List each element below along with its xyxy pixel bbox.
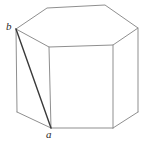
- bottom-right-edge: [113, 112, 138, 128]
- figure-canvas: b a: [0, 0, 148, 147]
- left-vertical-edge: [16, 29, 17, 112]
- hexagonal-prism-drawing: [0, 0, 148, 147]
- top-face-outline: [16, 5, 138, 47]
- vertex-label-a: a: [46, 129, 52, 140]
- front-left-vertical-edge: [49, 47, 51, 128]
- diagonal-b-to-a: [16, 29, 51, 128]
- vertex-label-b: b: [6, 21, 12, 32]
